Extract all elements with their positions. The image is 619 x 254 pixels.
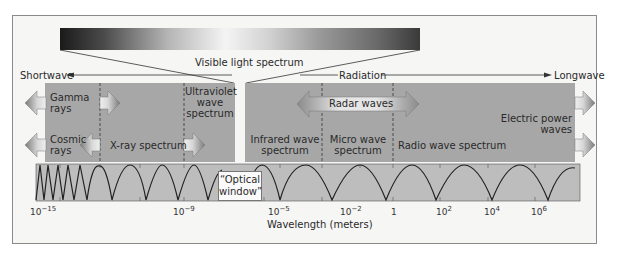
x-ray-spectrum-label: X-ray spectrum: [110, 140, 187, 151]
tick-1e4: 104: [484, 205, 500, 217]
radiation-label: Radiation: [339, 70, 386, 81]
tick-1e-15: 10−15: [30, 205, 56, 217]
axis-label: Wavelength (meters): [267, 219, 373, 230]
radar-waves-label: Radar waves: [329, 98, 393, 109]
radio-wave-label: Radio wave spectrum: [398, 140, 506, 151]
longwave-label: Longwave: [554, 70, 605, 81]
visible-light-label: Visible light spectrum: [195, 57, 304, 68]
infrared-label: Infrared wave spectrum: [250, 134, 320, 156]
tick-1e-2: 10−2: [340, 205, 362, 217]
shortwave-label: Shortwave: [20, 70, 73, 81]
tick-1e-5: 10−5: [268, 205, 290, 217]
tick-1e2: 102: [436, 205, 452, 217]
tick-1e6: 106: [531, 205, 547, 217]
tick-1: 1: [391, 207, 397, 217]
cosmic-rays-label: Cosmic rays: [50, 134, 86, 156]
tick-1e-9: 10−9: [173, 205, 195, 217]
electric-power-label: Electric power waves: [500, 113, 572, 135]
microwave-label: Micro wave spectrum: [324, 134, 392, 156]
optical-window-label: “Optical window”: [218, 171, 262, 201]
ultraviolet-label: Ultraviolet wave spectrum: [185, 86, 235, 119]
gamma-rays-label: Gamma rays: [50, 92, 90, 114]
